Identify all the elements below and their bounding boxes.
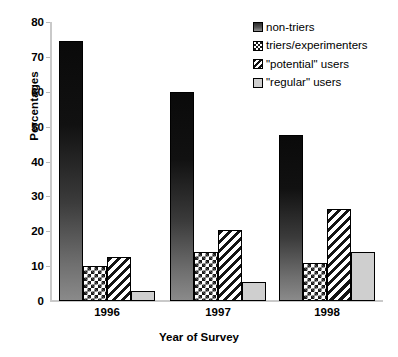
legend: non-triers triers/experimenters "potenti…: [253, 18, 398, 92]
y-tick-label: 60: [22, 87, 44, 99]
y-tick-label: 0: [22, 296, 44, 308]
bar-potential-users-1998: [327, 209, 351, 301]
legend-item-potential-users: "potential" users: [253, 55, 398, 74]
y-tick-label: 70: [22, 52, 44, 64]
legend-item-triers-experimenters: triers/experimenters: [253, 37, 398, 56]
y-tick-label: 20: [22, 226, 44, 238]
y-axis-tick-labels: 80 70 60 50 40 30 20 10 0: [20, 0, 44, 357]
y-tick-label: 10: [22, 261, 44, 273]
x-axis-title: Year of Survey: [0, 331, 398, 343]
legend-item-label: triers/experimenters: [266, 40, 368, 52]
bar-regular-users-1998: [351, 252, 375, 301]
bar-non-triers-1996: [59, 41, 83, 301]
x-tick-label-1997: 1997: [188, 306, 248, 318]
legend-swatch-icon: [253, 78, 263, 88]
legend-item-regular-users: "regular" users: [253, 74, 398, 93]
bar-potential-users-1996: [107, 257, 131, 301]
legend-swatch-icon: [253, 41, 263, 51]
x-tick-label-1996: 1996: [77, 306, 137, 318]
y-tick-label: 80: [22, 17, 44, 29]
bar-group-1996: [59, 22, 154, 301]
legend-swatch-icon: [253, 59, 263, 69]
bar-triers-experimenters-1998: [303, 263, 327, 301]
y-tick-label: 50: [22, 122, 44, 134]
bar-regular-users-1996: [131, 291, 155, 301]
legend-item-non-triers: non-triers: [253, 18, 398, 37]
legend-swatch-icon: [253, 22, 263, 32]
legend-item-label: "potential" users: [266, 59, 349, 71]
bar-triers-experimenters-1997: [194, 252, 218, 301]
bar-triers-experimenters-1996: [83, 266, 107, 301]
y-tick-label: 40: [22, 157, 44, 169]
bar-potential-users-1997: [218, 230, 242, 301]
bar-non-triers-1997: [170, 92, 194, 301]
bar-chart: Percentages 80 70 60 50 40 30 20 10 0: [0, 0, 398, 357]
legend-item-label: non-triers: [266, 22, 315, 34]
legend-item-label: "regular" users: [266, 77, 341, 89]
y-tick-label: 30: [22, 191, 44, 203]
bar-group-1997: [170, 22, 265, 301]
bar-regular-users-1997: [242, 282, 266, 301]
bar-non-triers-1998: [279, 135, 303, 301]
x-tick-label-1998: 1998: [297, 306, 357, 318]
